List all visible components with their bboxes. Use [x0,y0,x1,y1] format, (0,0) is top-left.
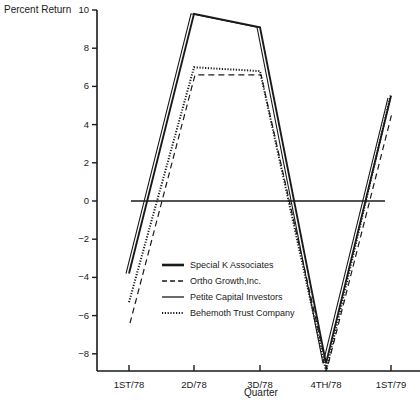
y-tick-label: 2 [63,157,89,168]
x-tick-label: 1ST/78 [104,379,154,390]
series-line-ortho-growth-inc- [130,75,392,369]
y-tick-label: 10 [63,4,89,15]
legend-label: Ortho Growth,Inc. [190,273,261,289]
legend: Special K Associates Ortho Growth,Inc. P… [162,257,295,321]
dotted-line-icon [162,309,184,317]
x-tick-label: 3D/78 [235,379,285,390]
legend-item-ortho-growth: Ortho Growth,Inc. [162,273,295,289]
legend-label: Petite Capital Investors [190,289,283,305]
x-tick-label: 1ST/79 [366,379,416,390]
x-tick-label: 4TH/78 [301,379,351,390]
legend-item-behemoth-trust: Behemoth Trust Company [162,305,295,321]
legend-label: Behemoth Trust Company [190,305,295,321]
y-tick-label: 6 [63,80,89,91]
legend-label: Special K Associates [190,257,274,273]
legend-item-special-k: Special K Associates [162,257,295,273]
y-tick-label: 0 [63,195,89,206]
legend-item-petite-capital: Petite Capital Investors [162,289,295,305]
y-tick-label: −8 [63,348,89,359]
y-axis-title: Percent Return [4,4,71,15]
y-tick-label: −6 [63,310,89,321]
y-tick-label: 8 [63,42,89,53]
thick-solid-line-icon [162,261,184,269]
thin-solid-line-icon [162,293,184,301]
x-tick-label: 2D/78 [169,379,219,390]
dashed-line-icon [162,277,184,285]
y-tick-label: −4 [63,271,89,282]
y-tick-label: −2 [63,233,89,244]
y-tick-label: 4 [63,119,89,130]
